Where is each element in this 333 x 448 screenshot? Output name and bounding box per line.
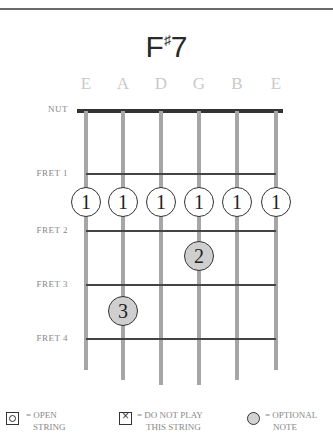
fret-label-1: FRET 1 [10,168,68,178]
optional-note-icon [247,412,260,425]
string-name-0: E [71,74,101,94]
nut-label: NUT [20,104,68,114]
top-rule [0,8,333,10]
legend-optional-line1: = OPTIONAL [265,410,317,421]
chord-title: F♯7 [0,30,333,64]
string-name-1: A [108,74,138,94]
fret-label-2: FRET 2 [10,225,68,235]
fret-line-2 [86,230,276,232]
legend-open-line1: = OPEN [26,410,57,421]
chord-sharp: ♯ [164,32,171,48]
mute-string-icon: × [119,412,132,425]
open-string-icon [6,412,19,425]
guitar-string-0 [84,111,88,370]
finger-position: 1 [108,187,138,217]
string-name-2: D [146,74,176,94]
string-name-3: G [184,74,214,94]
fret-label-3: FRET 3 [10,279,68,289]
finger-position: 1 [146,187,176,217]
nut [77,109,283,113]
guitar-string-2 [159,111,163,385]
chord-quality: 7 [171,30,188,63]
fret-line-3 [86,284,276,286]
finger-position: 1 [222,187,252,217]
fret-line-1 [86,173,276,175]
legend-optional-line2: NOTE [273,422,297,433]
legend-mute-line1: = DO NOT PLAY [137,410,203,421]
finger-position: 1 [71,187,101,217]
string-name-5: E [261,74,291,94]
string-name-4: B [222,74,252,94]
finger-position: 1 [184,187,214,217]
fret-label-4: FRET 4 [10,333,68,343]
guitar-string-5 [274,111,278,370]
legend-mute-line2: THIS STRING [146,422,201,433]
finger-position: 1 [261,187,291,217]
chord-root: F [145,30,163,63]
finger-position: 3 [108,296,138,326]
finger-position: 2 [184,241,214,271]
legend-open-line2: STRING [33,422,66,433]
fret-line-4 [86,338,276,340]
